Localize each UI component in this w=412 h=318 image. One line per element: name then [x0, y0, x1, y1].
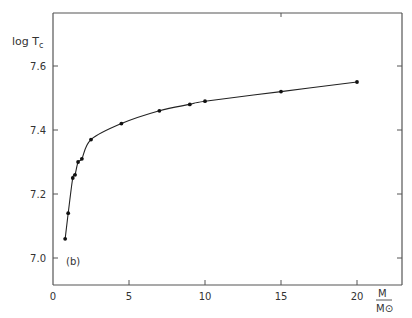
plot-frame: [53, 13, 402, 285]
chart: 05101520 7.07.27.47.6 log Tc (b) M M⊙: [0, 0, 412, 318]
data-point: [158, 109, 162, 113]
y-tick-label: 7.6: [30, 61, 46, 72]
x-tick-label: 20: [351, 291, 364, 302]
svg-text:M⊙: M⊙: [376, 303, 393, 314]
y-tick-label: 7.4: [30, 125, 46, 136]
y-tick-label: 7.2: [30, 189, 46, 200]
data-point: [120, 122, 124, 126]
data-point: [203, 99, 207, 103]
data-point: [73, 173, 77, 177]
y-ticks: 7.07.27.47.6: [30, 61, 402, 264]
data-point: [89, 138, 93, 142]
data-point: [279, 90, 283, 94]
svg-text:M: M: [378, 288, 387, 299]
x-axis-label: M M⊙: [376, 288, 393, 314]
x-ticks: 05101520: [50, 13, 364, 302]
data-point: [355, 80, 359, 84]
data-points: [63, 80, 359, 241]
data-point: [71, 176, 75, 180]
panel-label: (b): [66, 256, 80, 267]
data-point: [66, 211, 70, 215]
data-point: [76, 160, 80, 164]
x-tick-label: 0: [50, 291, 56, 302]
data-point: [188, 103, 192, 107]
x-tick-label: 5: [126, 291, 132, 302]
x-tick-label: 10: [199, 291, 212, 302]
data-point: [80, 157, 84, 161]
y-axis-label: log Tc: [12, 35, 43, 50]
x-tick-label: 15: [275, 291, 288, 302]
data-point: [63, 237, 67, 241]
data-curve: [65, 82, 357, 239]
y-tick-label: 7.0: [30, 253, 46, 264]
